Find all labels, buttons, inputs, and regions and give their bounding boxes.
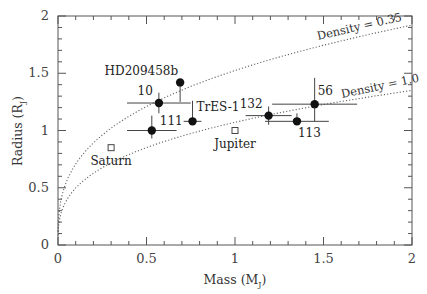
planet-marker [176,78,184,86]
x-tick-label: 0.5 [136,251,157,266]
planet-label: 113 [298,126,321,140]
x-tick-label: 1.5 [313,251,334,266]
y-tick-label: 0.5 [28,180,49,195]
planet-label: 132 [240,97,263,111]
solar-planet-label: Saturn [90,154,132,168]
planet-marker [293,117,301,125]
planet-marker [264,111,272,119]
planet-marker [188,117,196,125]
x-tick-label: 1 [231,251,239,266]
y-tick-label: 0 [41,237,49,252]
solar-planet-label: Jupiter [212,137,256,151]
planet-label: HD209458b [105,64,179,78]
solar-planet-marker [232,128,238,134]
mass-radius-chart: 00.511.5200.511.52 HD209458b10111TrES-11… [0,0,427,294]
x-axis-label: Mass (MJ) [204,272,267,289]
y-tick-label: 2 [41,8,49,23]
y-tick-label: 1 [41,123,49,138]
planet-marker [155,99,163,107]
planet-label: TrES-1 [197,100,240,114]
planet-marker [310,100,318,108]
y-axis-label: Radius (RJ) [10,96,27,166]
x-tick-label: 0 [54,251,62,266]
planet-label: 56 [318,84,333,98]
planet-marker [148,126,156,134]
planet-label: 10 [138,84,153,98]
curve-label-density-035: Density = 0.35 [316,10,404,43]
planet-label: 111 [160,114,183,128]
x-tick-label: 2 [408,251,416,266]
solar-planet-marker [108,145,114,151]
y-tick-label: 1.5 [28,65,49,80]
